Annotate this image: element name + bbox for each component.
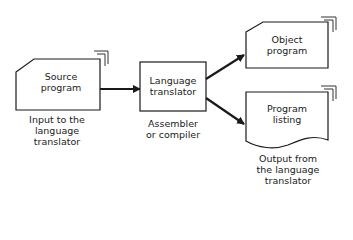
program-listing-label: Program listing bbox=[250, 103, 324, 125]
arrow-translator-to-listing bbox=[206, 98, 244, 124]
source-caption: Input to the language translator bbox=[14, 114, 100, 147]
object-program-label: Object program bbox=[250, 34, 324, 56]
language-translator-label: Language translator bbox=[140, 75, 206, 97]
source-program-label: Source program bbox=[28, 71, 94, 93]
listing-caption: Output from the language translator bbox=[248, 153, 328, 186]
translator-caption: Assembler or compiler bbox=[136, 118, 210, 140]
arrow-translator-to-object bbox=[206, 55, 244, 79]
